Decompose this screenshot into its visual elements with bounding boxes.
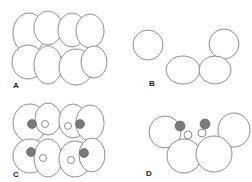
panel-d-cells xyxy=(149,113,250,173)
granule xyxy=(27,148,36,157)
vacuole xyxy=(65,123,72,130)
granule xyxy=(76,120,85,129)
diagram-canvas xyxy=(0,0,252,182)
granule xyxy=(175,121,185,131)
panel-c-cells xyxy=(13,103,105,177)
vacuole xyxy=(40,155,47,162)
granule xyxy=(80,149,89,158)
panel-d-label: D xyxy=(146,170,152,178)
cell-diagram-figure: A B C D xyxy=(0,0,252,182)
vacuole xyxy=(198,129,206,137)
vacuole xyxy=(42,121,49,128)
panel-c-label: C xyxy=(13,171,19,179)
vacuole xyxy=(68,157,75,164)
granule xyxy=(200,119,210,129)
panel-b-label: B xyxy=(149,80,155,88)
panel-a-label: A xyxy=(13,82,19,90)
granule xyxy=(28,120,37,129)
vacuole xyxy=(184,131,192,139)
panel-a-cells xyxy=(12,11,107,85)
panel-b-cells xyxy=(133,29,239,84)
